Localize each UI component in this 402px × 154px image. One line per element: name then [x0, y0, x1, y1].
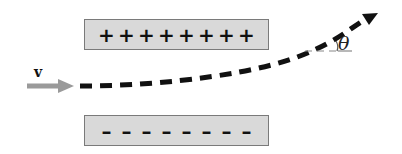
velocity-arrow-icon — [27, 79, 74, 93]
trajectory-path — [80, 19, 366, 86]
velocity-label: v — [34, 64, 42, 80]
diagram-canvas: + + + + + + + + – – – – – – – – — [0, 0, 402, 154]
trajectory-overlay — [0, 0, 402, 154]
angle-label: θ — [338, 32, 349, 54]
trajectory-arrowhead-icon — [362, 13, 378, 25]
